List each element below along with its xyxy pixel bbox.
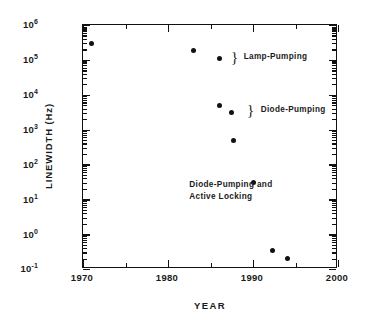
y-tick-minor bbox=[83, 102, 87, 103]
diode-pumping-active-locking-annotation-line2: Active Locking bbox=[189, 191, 272, 203]
x-tick-label-1970: 1970 bbox=[71, 272, 93, 283]
y-tick-minor bbox=[83, 218, 87, 219]
y-tick-minor bbox=[83, 43, 87, 44]
y-tick-label-1e-1: 10-1 bbox=[20, 262, 38, 274]
y-tick-minor bbox=[83, 201, 87, 202]
x-tick-label-2000: 2000 bbox=[326, 272, 348, 283]
y-tick-major-right bbox=[329, 269, 336, 270]
data-point bbox=[285, 256, 290, 261]
y-tick-minor-right bbox=[332, 178, 336, 179]
y-tick-minor bbox=[83, 109, 87, 110]
y-tick-minor-right bbox=[332, 43, 336, 44]
y-tick-major bbox=[83, 95, 90, 96]
x-axis-title: YEAR bbox=[194, 300, 226, 311]
y-tick-minor-right bbox=[332, 61, 336, 62]
data-point bbox=[270, 248, 275, 253]
y-tick-minor bbox=[83, 140, 87, 141]
diode-pumping-active-locking-annotation-line1: Diode-Pumping and bbox=[189, 179, 272, 191]
diode-pumping-annotation: Diode-Pumping bbox=[261, 104, 326, 116]
y-tick-minor bbox=[83, 137, 87, 138]
y-tick-label-1e4: 104 bbox=[23, 88, 38, 100]
y-tick-major-right bbox=[329, 164, 336, 165]
y-tick-minor-right bbox=[332, 49, 336, 50]
y-tick-minor-right bbox=[332, 240, 336, 241]
y-tick-minor-right bbox=[332, 245, 336, 246]
x-tick-major-top bbox=[83, 25, 84, 32]
y-tick-label-1e5: 105 bbox=[23, 53, 38, 65]
y-tick-label-1e3: 103 bbox=[23, 123, 38, 135]
diode-pumping-active-locking-annotation: Diode-Pumping andActive Locking bbox=[189, 179, 272, 203]
y-tick-minor-right bbox=[332, 143, 336, 144]
y-tick-minor-right bbox=[332, 154, 336, 155]
y-tick-minor-right bbox=[332, 242, 336, 243]
x-tick-major bbox=[83, 260, 84, 267]
y-tick-minor bbox=[83, 175, 87, 176]
y-tick-minor-right bbox=[332, 30, 336, 31]
x-tick-minor-top bbox=[296, 25, 297, 29]
y-tick-minor-right bbox=[332, 189, 336, 190]
y-tick-minor bbox=[83, 135, 87, 136]
y-tick-minor-right bbox=[332, 201, 336, 202]
y-tick-minor-right bbox=[332, 172, 336, 173]
y-tick-label-1e6: 106 bbox=[23, 18, 38, 30]
y-tick-minor-right bbox=[332, 133, 336, 134]
y-tick-minor bbox=[83, 242, 87, 243]
y-tick-major-right bbox=[329, 25, 336, 26]
y-tick-minor bbox=[83, 252, 87, 253]
y-tick-major bbox=[83, 269, 90, 270]
x-tick-minor bbox=[296, 263, 297, 267]
data-point bbox=[217, 56, 222, 61]
y-tick-minor bbox=[83, 119, 87, 120]
y-tick-minor bbox=[83, 178, 87, 179]
y-tick-minor-right bbox=[332, 248, 336, 249]
y-tick-minor-right bbox=[332, 135, 336, 136]
y-tick-major bbox=[83, 199, 90, 200]
lamp-pumping-annotation: Lamp-Pumping bbox=[244, 51, 308, 63]
y-tick-minor-right bbox=[332, 236, 336, 237]
y-tick-minor bbox=[83, 143, 87, 144]
y-tick-minor bbox=[83, 113, 87, 114]
x-tick-major-top bbox=[253, 25, 254, 32]
y-tick-minor bbox=[83, 240, 87, 241]
y-tick-minor bbox=[83, 170, 87, 171]
y-tick-major-right bbox=[329, 234, 336, 235]
y-tick-minor-right bbox=[332, 259, 336, 260]
y-tick-major bbox=[83, 130, 90, 131]
y-tick-minor-right bbox=[332, 131, 336, 132]
y-tick-major bbox=[83, 60, 90, 61]
x-tick-major bbox=[253, 260, 254, 267]
y-tick-minor-right bbox=[332, 119, 336, 120]
y-tick-minor bbox=[83, 238, 87, 239]
y-tick-minor bbox=[83, 133, 87, 134]
y-tick-minor bbox=[83, 210, 87, 211]
y-tick-minor bbox=[83, 98, 87, 99]
y-tick-minor-right bbox=[332, 102, 336, 103]
y-tick-minor-right bbox=[332, 70, 336, 71]
y-tick-minor-right bbox=[332, 63, 336, 64]
y-tick-minor-right bbox=[332, 207, 336, 208]
y-tick-minor bbox=[83, 224, 87, 225]
y-tick-minor bbox=[83, 96, 87, 97]
y-tick-minor bbox=[83, 35, 87, 36]
y-tick-minor bbox=[83, 33, 87, 34]
x-tick-label-1980: 1980 bbox=[156, 272, 178, 283]
y-tick-minor-right bbox=[332, 168, 336, 169]
y-tick-minor bbox=[83, 61, 87, 62]
y-tick-minor-right bbox=[332, 68, 336, 69]
y-tick-minor-right bbox=[332, 252, 336, 253]
y-tick-minor bbox=[83, 70, 87, 71]
y-tick-minor bbox=[83, 78, 87, 79]
y-tick-major bbox=[83, 164, 90, 165]
y-tick-minor bbox=[83, 245, 87, 246]
y-tick-minor bbox=[83, 236, 87, 237]
y-tick-minor bbox=[83, 148, 87, 149]
y-tick-minor-right bbox=[332, 74, 336, 75]
y-tick-minor-right bbox=[332, 203, 336, 204]
y-tick-minor-right bbox=[332, 113, 336, 114]
y-tick-minor-right bbox=[332, 84, 336, 85]
x-tick-minor-top bbox=[211, 25, 212, 29]
data-point bbox=[231, 138, 236, 143]
y-tick-minor-right bbox=[332, 148, 336, 149]
y-axis-title: LINEWIDTH (Hz) bbox=[43, 103, 54, 189]
y-tick-minor-right bbox=[332, 224, 336, 225]
